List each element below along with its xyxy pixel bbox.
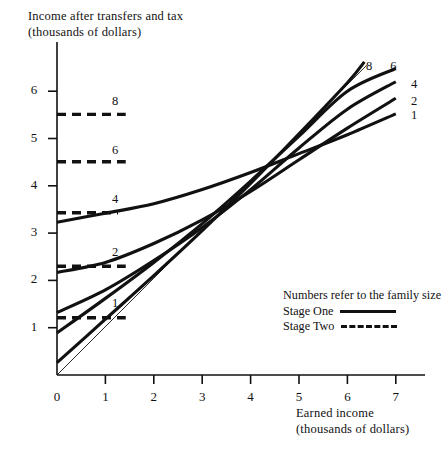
x-tick-label: 0 bbox=[47, 389, 67, 405]
legend: Numbers refer to the family size Stage O… bbox=[283, 288, 441, 335]
x-axis-title: Earned income (thousands of dollars) bbox=[296, 405, 409, 437]
legend-label-stage-two: Stage Two bbox=[283, 319, 334, 335]
annotation-curve-end-label-6: 6 bbox=[385, 59, 401, 74]
y-tick-label: 2 bbox=[24, 271, 44, 287]
annotation-curve-end-label-4: 4 bbox=[406, 77, 422, 92]
x-axis-title-line2: (thousands of dollars) bbox=[296, 421, 409, 437]
annotation-dashed-line-label-6: 6 bbox=[107, 143, 123, 158]
y-axis-title: Income after transfers and tax (thousand… bbox=[28, 8, 183, 40]
y-tick-label: 1 bbox=[24, 319, 44, 335]
annotation-curve-end-label-2: 2 bbox=[406, 94, 422, 109]
y-tick-label: 5 bbox=[24, 130, 44, 146]
annotation-dashed-line-label-1: 1 bbox=[107, 296, 123, 311]
x-tick-label: 2 bbox=[144, 389, 164, 405]
annotation-dashed-line-label-4: 4 bbox=[107, 192, 123, 207]
annotation-curve-end-label-8: 8 bbox=[361, 59, 377, 74]
x-tick-label: 1 bbox=[95, 389, 115, 405]
y-axis-title-line2: (thousands of dollars) bbox=[28, 24, 183, 40]
chart-figure: Income after transfers and tax (thousand… bbox=[0, 0, 442, 458]
y-tick-label: 4 bbox=[24, 177, 44, 193]
annotation-dashed-line-label-8: 8 bbox=[107, 94, 123, 109]
x-tick-label: 4 bbox=[241, 389, 261, 405]
y-tick-label: 3 bbox=[24, 224, 44, 240]
legend-note-row: Numbers refer to the family size bbox=[283, 288, 441, 304]
x-tick-label: 5 bbox=[289, 389, 309, 405]
legend-label-stage-one: Stage One bbox=[283, 304, 333, 320]
x-tick-label: 6 bbox=[337, 389, 357, 405]
legend-swatch-dashed-line bbox=[341, 325, 397, 328]
annotation-dashed-line-label-2: 2 bbox=[107, 245, 123, 260]
annotation-curve-end-label-1: 1 bbox=[406, 108, 422, 123]
legend-note: Numbers refer to the family size bbox=[283, 288, 441, 304]
x-tick-label: 7 bbox=[386, 389, 406, 405]
legend-entry-stage-two: Stage Two bbox=[283, 319, 441, 335]
x-axis-title-line1: Earned income bbox=[296, 405, 409, 421]
legend-entry-stage-one: Stage One bbox=[283, 304, 441, 320]
y-axis-title-line1: Income after transfers and tax bbox=[28, 8, 183, 24]
y-tick-label: 6 bbox=[24, 82, 44, 98]
x-tick-label: 3 bbox=[192, 389, 212, 405]
legend-swatch-solid-line bbox=[340, 310, 396, 313]
